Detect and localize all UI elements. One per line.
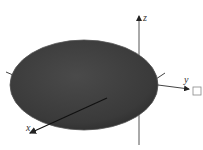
ellipsoid-diagram: z y x [0, 0, 203, 150]
z-axis-label: z [142, 12, 147, 23]
x-axis-label: x [25, 122, 31, 133]
y-axis [158, 85, 189, 89]
ellipsoid [10, 40, 158, 130]
y-axis-label: y [183, 74, 189, 85]
checkbox[interactable] [193, 87, 201, 95]
